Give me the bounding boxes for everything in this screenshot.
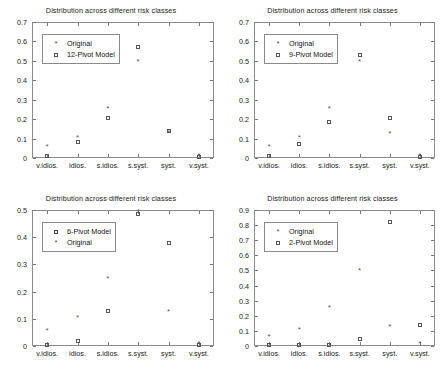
square-marker [388, 220, 392, 224]
asterisk-marker: * [266, 335, 272, 341]
square-marker [45, 154, 49, 158]
y-tick-mark-right [210, 237, 213, 238]
y-tick-mark-right [210, 346, 213, 347]
data-point-square [358, 53, 362, 57]
data-point-asterisk: * [296, 136, 302, 142]
y-tick-mark-right [431, 210, 434, 211]
x-tick-label: s.syst. [128, 349, 148, 358]
data-point-square [76, 339, 80, 343]
y-tick-mark [33, 119, 36, 120]
y-tick-label: 0.1 [0, 314, 27, 323]
data-point-asterisk: * [266, 335, 272, 341]
square-marker [418, 323, 422, 327]
x-tick-label: idios. [69, 161, 86, 170]
data-point-asterisk: * [357, 60, 363, 66]
y-tick-mark [33, 22, 36, 23]
y-tick-mark-right [431, 22, 434, 23]
y-tick-label: 0.6 [222, 251, 249, 260]
y-tick-mark [255, 316, 258, 317]
x-tick-mark [138, 342, 139, 345]
legend-entry: 9-Pivot Model [269, 49, 333, 60]
chart-panel-top-left: Distribution across different risk class… [0, 0, 222, 188]
y-tick-mark [255, 240, 258, 241]
legend-marker-asterisk: * [269, 226, 287, 237]
y-tick-mark [33, 237, 36, 238]
y-tick-mark-right [431, 158, 434, 159]
data-point-asterisk: * [296, 328, 302, 334]
chart-legend: 6-Pivot Model*Original [42, 222, 116, 252]
y-tick-mark-right [210, 22, 213, 23]
chart-title: Distribution across different risk class… [0, 194, 222, 203]
y-tick-mark-right [210, 41, 213, 42]
chart-legend: *Original2-Pivot Model [264, 222, 338, 252]
asterisk-marker: * [387, 325, 393, 331]
data-point-square [388, 220, 392, 224]
legend-entry: 2-Pivot Model [269, 237, 333, 248]
legend-label: 6-Pivot Model [65, 227, 111, 236]
x-tick-mark-top [199, 23, 200, 26]
y-tick-mark [255, 119, 258, 120]
x-tick-label: idios. [291, 161, 308, 170]
y-tick-label: 0.7 [222, 18, 249, 27]
data-point-square [388, 116, 392, 120]
x-tick-mark [108, 154, 109, 157]
data-point-square [418, 155, 422, 159]
asterisk-marker: * [266, 145, 272, 151]
y-tick-mark [33, 61, 36, 62]
y-tick-label: 0.6 [222, 37, 249, 46]
legend-entry: *Original [269, 226, 333, 237]
asterisk-marker: * [417, 342, 423, 348]
square-marker [358, 53, 362, 57]
legend-label: Original [65, 39, 92, 48]
x-tick-mark-top [420, 211, 421, 214]
y-tick-mark [255, 22, 258, 23]
square-marker [267, 154, 271, 158]
x-tick-mark-top [329, 211, 330, 214]
asterisk-marker: * [44, 329, 50, 335]
y-tick-mark-right [431, 301, 434, 302]
y-tick-mark-right [431, 80, 434, 81]
square-marker [167, 129, 171, 133]
y-tick-label: 0.4 [0, 233, 27, 242]
x-tick-mark-top [169, 211, 170, 214]
data-point-square [418, 323, 422, 327]
y-tick-mark [33, 292, 36, 293]
y-tick-label: 0.3 [0, 260, 27, 269]
asterisk-marker: * [275, 41, 281, 47]
data-point-square [297, 142, 301, 146]
x-tick-label: syst. [161, 161, 176, 170]
legend-marker-square [47, 49, 65, 60]
x-tick-mark-top [78, 211, 79, 214]
y-tick-mark [255, 158, 258, 159]
asterisk-marker: * [275, 229, 281, 235]
square-marker [418, 155, 422, 159]
x-tick-mark-top [299, 211, 300, 214]
data-point-square [106, 116, 110, 120]
asterisk-marker: * [135, 210, 141, 216]
asterisk-marker: * [326, 107, 332, 113]
legend-entry: 6-Pivot Model [47, 226, 111, 237]
legend-marker-square [269, 237, 287, 248]
y-tick-label: 0.3 [0, 95, 27, 104]
x-tick-mark [78, 154, 79, 157]
data-point-asterisk: * [387, 325, 393, 331]
y-tick-mark [255, 270, 258, 271]
x-tick-label: v.idios. [258, 161, 280, 170]
x-tick-mark [360, 342, 361, 345]
data-point-asterisk: * [166, 310, 172, 316]
x-tick-label: syst. [161, 349, 176, 358]
y-tick-mark [33, 210, 36, 211]
x-tick-label: v.idios. [36, 349, 58, 358]
y-tick-label: 0 [222, 342, 249, 351]
y-tick-mark-right [210, 119, 213, 120]
x-tick-mark [329, 154, 330, 157]
y-tick-label: 0.5 [222, 56, 249, 65]
asterisk-marker: * [53, 240, 59, 246]
x-tick-label: idios. [291, 349, 308, 358]
y-tick-mark [255, 100, 258, 101]
y-tick-label: 0.1 [0, 134, 27, 143]
x-tick-mark [360, 154, 361, 157]
y-tick-mark-right [431, 331, 434, 332]
x-tick-mark-top [169, 23, 170, 26]
data-point-square [267, 343, 271, 347]
